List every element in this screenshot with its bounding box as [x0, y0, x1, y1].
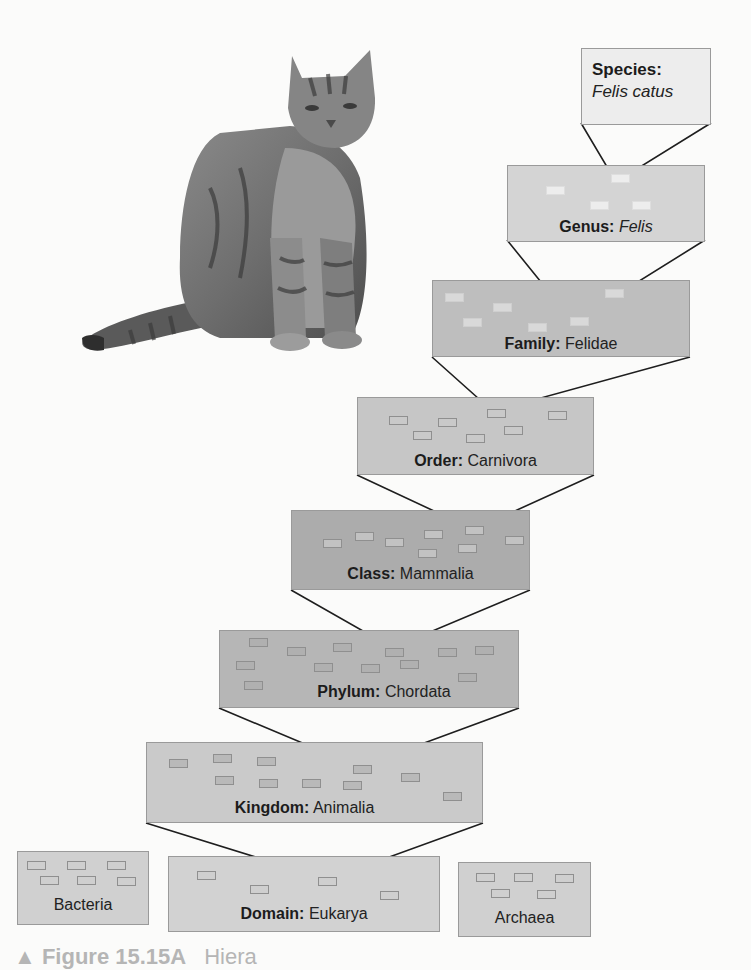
member-chip [77, 876, 96, 885]
member-chip [361, 664, 380, 673]
class-rank: Class: [347, 565, 395, 582]
member-chip [169, 759, 188, 768]
member-chip [504, 426, 523, 435]
species-name: Felis catus [592, 82, 673, 101]
member-chip [514, 873, 533, 882]
member-chip [466, 434, 485, 443]
domain-rank: Domain: [240, 905, 304, 922]
member-chip [400, 660, 419, 669]
member-chip [314, 663, 333, 672]
archaea-label: Archaea [459, 909, 590, 927]
member-chip [385, 648, 404, 657]
family-rank: Family: [505, 335, 561, 352]
domain-box-bacteria: Bacteria [17, 851, 149, 925]
member-chip [546, 186, 565, 195]
member-chip [528, 323, 547, 332]
member-chip [493, 303, 512, 312]
bacteria-label: Bacteria [18, 896, 148, 914]
member-chip [605, 289, 624, 298]
taxon-box-species: Species: Felis catus [581, 48, 711, 125]
member-chip [107, 861, 126, 870]
member-chip [355, 532, 374, 541]
taxon-box-family: Family: Felidae [432, 280, 690, 357]
member-chip [476, 873, 495, 882]
species-label: Species: Felis catus [592, 59, 710, 103]
member-chip [401, 773, 420, 782]
member-chip [487, 409, 506, 418]
member-chip [236, 661, 255, 670]
member-chip [249, 638, 268, 647]
domain-box-archaea: Archaea [458, 862, 591, 937]
member-chip [475, 646, 494, 655]
phylum-name: Chordata [385, 683, 451, 700]
member-chip [323, 539, 342, 548]
member-chip [555, 874, 574, 883]
species-rank: Species: [592, 60, 662, 79]
member-chip [570, 317, 589, 326]
taxon-box-kingdom: Kingdom: Animalia [146, 742, 483, 823]
member-chip [40, 876, 59, 885]
taxon-box-order: Order: Carnivora [357, 397, 594, 475]
member-chip [632, 201, 651, 210]
taxon-box-genus: Genus: Felis [507, 165, 705, 242]
member-chip [413, 431, 432, 440]
domain-label: Domain: Eukarya [169, 905, 439, 923]
genus-label: Genus: Felis [508, 218, 704, 236]
member-chip [318, 877, 337, 886]
phylum-rank: Phylum: [317, 683, 380, 700]
member-chip [257, 757, 276, 766]
taxon-box-phylum: Phylum: Chordata [219, 630, 519, 708]
order-label: Order: Carnivora [358, 452, 593, 470]
genus-rank: Genus: [559, 218, 614, 235]
member-chip [611, 174, 630, 183]
taxon-box-class: Class: Mammalia [291, 510, 530, 590]
member-chip [505, 536, 524, 545]
class-label: Class: Mammalia [292, 565, 529, 583]
member-chip [548, 411, 567, 420]
member-chip [424, 530, 443, 539]
genus-name: Felis [619, 218, 653, 235]
caption-text: Hiera [204, 944, 257, 969]
member-chip [117, 877, 136, 886]
member-chip [590, 201, 609, 210]
member-chip [438, 418, 457, 427]
member-chip [213, 754, 232, 763]
order-rank: Order: [414, 452, 463, 469]
family-name: Felidae [565, 335, 617, 352]
member-chip [197, 871, 216, 880]
family-label: Family: Felidae [433, 335, 689, 353]
member-chip [27, 861, 46, 870]
phylum-label: Phylum: Chordata [250, 683, 518, 701]
member-chip [537, 890, 556, 899]
member-chip [458, 673, 477, 682]
member-chip [67, 861, 86, 870]
kingdom-rank: Kingdom: [235, 799, 310, 816]
member-chip [302, 779, 321, 788]
member-chip [250, 885, 269, 894]
member-chip [287, 647, 306, 656]
member-chip [385, 538, 404, 547]
member-chip [465, 526, 484, 535]
kingdom-name: Animalia [313, 799, 374, 816]
cat-photo [70, 38, 400, 368]
member-chip [458, 544, 477, 553]
taxon-box-domain: Domain: Eukarya [168, 856, 440, 932]
figure-caption: ▲ Figure 15.15AHiera [14, 944, 257, 970]
member-chip [343, 781, 362, 790]
member-chip [418, 549, 437, 558]
member-chip [438, 648, 457, 657]
kingdom-label: Kingdom: Animalia [127, 799, 482, 817]
member-chip [259, 779, 278, 788]
member-chip [353, 765, 372, 774]
member-chip [389, 416, 408, 425]
caption-prefix: ▲ Figure 15.15A [14, 944, 186, 969]
class-name: Mammalia [400, 565, 474, 582]
member-chip [215, 776, 234, 785]
member-chip [491, 889, 510, 898]
domain-name: Eukarya [309, 905, 368, 922]
member-chip [333, 643, 352, 652]
member-chip [445, 293, 464, 302]
member-chip [380, 891, 399, 900]
member-chip [463, 318, 482, 327]
order-name: Carnivora [468, 452, 537, 469]
